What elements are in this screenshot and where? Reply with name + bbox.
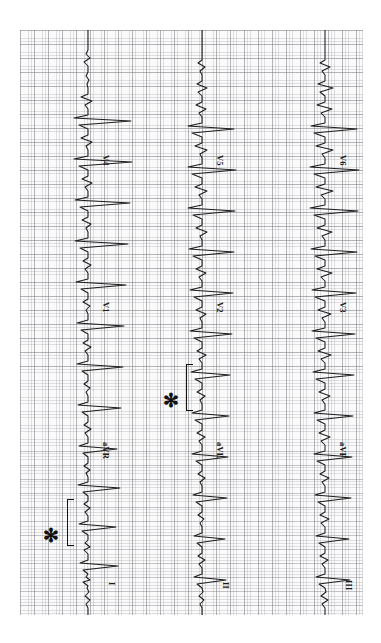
lead-label-II: II <box>222 582 231 589</box>
lead-label-V6: V6 <box>339 155 348 166</box>
lead-label-V2: V2 <box>216 302 225 313</box>
trace-column-1-path <box>74 30 132 615</box>
trace-column-3-path <box>310 30 359 615</box>
lead-label-V1: V1 <box>102 302 111 313</box>
lead-label-III: III <box>345 580 354 591</box>
asterisk-marker-1: ✻ <box>43 526 59 545</box>
ecg-page: I aVR V1 V4 II aVL V2 V5 III aVF V3 V6 ✻… <box>0 0 381 643</box>
lead-label-aVR: aVR <box>102 442 111 459</box>
asterisk-marker-2: ✻ <box>163 391 179 410</box>
ecg-graph-paper: I aVR V1 V4 II aVL V2 V5 III aVF V3 V6 ✻… <box>20 30 363 615</box>
lead-label-V4: V4 <box>102 155 111 166</box>
trace-column-2-path <box>188 30 236 615</box>
asterisk-bracket-1 <box>67 499 74 546</box>
asterisk-bracket-2 <box>186 364 193 411</box>
lead-label-aVF: aVF <box>339 442 348 458</box>
lead-label-aVL: aVL <box>216 442 225 459</box>
lead-label-V5: V5 <box>216 155 225 166</box>
lead-label-V3: V3 <box>339 302 348 313</box>
lead-label-I: I <box>108 582 117 586</box>
